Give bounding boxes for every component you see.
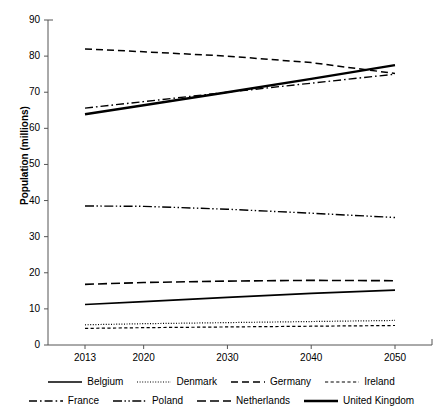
line-chart: Population (millions) 010203040506070809… <box>0 0 443 420</box>
legend-label: United Kingdom <box>343 396 414 406</box>
legend-item-germany[interactable]: Germany <box>231 377 311 387</box>
legend-swatch-icon <box>197 396 231 406</box>
legend-item-france[interactable]: France <box>29 396 99 406</box>
legend-swatch-icon <box>113 396 147 406</box>
legend-row-1: BelgiumDenmarkGermanyIreland <box>0 372 443 391</box>
legend-label: Denmark <box>176 377 217 387</box>
series-line-united-kingdom <box>85 65 395 114</box>
series-line-denmark <box>85 320 395 324</box>
series-line-netherlands <box>85 280 395 284</box>
x-axis-ticks <box>85 345 395 349</box>
legend-item-belgium[interactable]: Belgium <box>48 377 123 387</box>
legend-label: Netherlands <box>236 396 290 406</box>
legend-item-ireland[interactable]: Ireland <box>325 377 395 387</box>
series-line-belgium <box>85 290 395 304</box>
legend-swatch-icon <box>48 377 82 387</box>
legend-swatch-icon <box>325 377 359 387</box>
legend-item-denmark[interactable]: Denmark <box>137 377 217 387</box>
legend-swatch-icon <box>304 396 338 406</box>
series-line-poland <box>85 206 395 218</box>
y-axis-ticks <box>44 20 48 345</box>
legend-row-2: FrancePolandNetherlandsUnited Kingdom <box>0 391 443 410</box>
legend-swatch-icon <box>231 377 265 387</box>
plot-area <box>0 0 443 420</box>
legend-item-netherlands[interactable]: Netherlands <box>197 396 290 406</box>
series-line-germany <box>85 49 395 74</box>
legend-swatch-icon <box>29 396 63 406</box>
legend-label: Germany <box>270 377 311 387</box>
legend-item-united-kingdom[interactable]: United Kingdom <box>304 396 414 406</box>
legend-label: Ireland <box>364 377 395 387</box>
legend-swatch-icon <box>137 377 171 387</box>
legend-label: Belgium <box>87 377 123 387</box>
legend-label: France <box>68 396 99 406</box>
legend-item-poland[interactable]: Poland <box>113 396 183 406</box>
chart-legend: BelgiumDenmarkGermanyIreland FrancePolan… <box>0 372 443 410</box>
series-line-ireland <box>85 326 395 329</box>
legend-label: Poland <box>152 396 183 406</box>
